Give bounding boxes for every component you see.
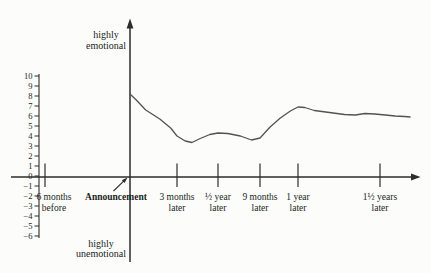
y-scale-tick-label: −6: [23, 231, 32, 241]
y-scale-tick-label: 0: [28, 171, 32, 181]
x-axis-arrow-icon: [411, 174, 421, 181]
highly-emotional-label-line2: emotional: [86, 40, 126, 51]
highly-emotional-label-line1: highly: [93, 29, 119, 40]
x-axis-ticks: [45, 164, 380, 188]
x-axis-tick-label: later: [290, 203, 308, 213]
x-axis-tick-label: later: [252, 203, 270, 213]
y-scale-tick-label: −2: [23, 191, 32, 201]
y-scale-tick-label: −5: [23, 221, 32, 231]
y-scale-tick-label: 3: [28, 141, 32, 151]
x-axis-tick-label: later: [169, 203, 187, 213]
emotion-timeline-chart: 109876543210−1−2−3−4−5−6 6 monthsbeforeA…: [0, 0, 431, 273]
y-scale-tick-label: 1: [28, 161, 32, 171]
announcement-arrow-group: [114, 178, 128, 192]
x-axis-tick-label: 6 months: [36, 192, 71, 202]
x-axis-labels: 6 monthsbeforeAnnouncement3 monthslater½…: [36, 192, 397, 213]
x-axis-tick-label: ½ year: [205, 192, 232, 202]
highly-unemotional-label-line2: unemotional: [76, 248, 126, 259]
y-scale-tick-label: 2: [28, 151, 32, 161]
y-scale-tick-label: 10: [24, 71, 33, 81]
y-scale-tick-label: 6: [28, 111, 32, 121]
y-scale-tick-label: 5: [28, 121, 32, 131]
y-axis-top-label: highly emotional: [86, 29, 126, 51]
x-axis-tick-label: later: [372, 203, 390, 213]
highly-unemotional-label-line1: highly: [88, 238, 114, 249]
y-scale-tick-label: 9: [28, 81, 32, 91]
y-axis-arrow-icon: [127, 19, 134, 29]
emotion-timeline-figure: 109876543210−1−2−3−4−5−6 6 monthsbeforeA…: [0, 0, 431, 273]
y-scale-tick-label: 4: [28, 131, 33, 141]
y-axis-bottom-label: highly unemotional: [76, 238, 126, 260]
y-scale-tick-label: 8: [28, 91, 32, 101]
x-axis-tick-label: Announcement: [85, 192, 148, 202]
x-axis-tick-label: 1½ years: [363, 192, 398, 202]
announcement-arrow-line: [114, 181, 125, 191]
x-axis-tick-label: 3 months: [159, 192, 194, 202]
y-scale-tick-label: −4: [23, 211, 33, 221]
emotion-curve-group: [130, 94, 410, 143]
main-axes: [11, 19, 421, 263]
y-scale-axis: 109876543210−1−2−3−4−5−6: [23, 71, 39, 241]
x-axis-tick-label: later: [210, 203, 228, 213]
y-scale-tick-label: 7: [28, 101, 32, 111]
y-scale-tick-label: −3: [23, 201, 32, 211]
y-scale-tick-label: −1: [23, 181, 32, 191]
x-axis-tick-label: 9 months: [242, 192, 277, 202]
emotion-curve: [130, 94, 410, 143]
x-axis-tick-label: 1 year: [286, 192, 310, 202]
x-axis-tick-label: before: [42, 203, 66, 213]
